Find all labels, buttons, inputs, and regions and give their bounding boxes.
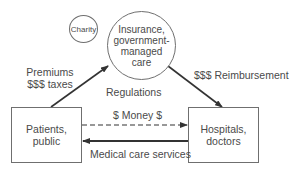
premiums-label: Premiums $$$ taxes <box>24 66 76 90</box>
charity-label: Charity <box>71 25 96 34</box>
patients-node: Patients, public <box>11 107 82 163</box>
hospitals-label: Hospitals, doctors <box>200 123 246 147</box>
charity-node: Charity <box>69 15 98 43</box>
reimbursement-label: $$$ Reimbursement <box>194 69 289 81</box>
patients-label: Patients, public <box>26 123 67 147</box>
insurance-node: Insurance, government- managed care <box>107 11 176 80</box>
money-label: $ Money $ <box>113 109 162 121</box>
health-care-flow-diagram: Charity Insurance, government- managed c… <box>0 0 290 172</box>
hospitals-node: Hospitals, doctors <box>188 107 259 163</box>
regulations-label: Regulations <box>106 86 161 98</box>
insurance-label: Insurance, government- managed care <box>113 24 169 68</box>
services-label: Medical care services <box>90 148 191 160</box>
